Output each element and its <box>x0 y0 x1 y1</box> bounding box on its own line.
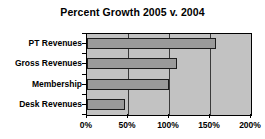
chart-title: Percent Growth 2005 v. 2004 <box>0 6 265 18</box>
x-axis-label-200: 200% <box>230 120 265 130</box>
y-axis-category-labels: PT RevenuesGross RevenuesMembershipDesk … <box>0 33 82 114</box>
bar-desk-revenues[interactable] <box>87 99 125 110</box>
x-axis-label-100: 100% <box>148 120 188 130</box>
y-axis-tick <box>82 63 86 64</box>
y-axis-tick <box>82 43 86 44</box>
x-axis-label-0: 0% <box>66 120 106 130</box>
plot-inner <box>87 34 251 115</box>
bar-row <box>87 54 251 74</box>
x-axis-tick-150 <box>209 114 210 118</box>
y-axis-tick <box>82 94 86 95</box>
plot-area <box>86 33 252 116</box>
y-axis-tick <box>82 104 86 105</box>
x-axis-label-50: 50% <box>107 120 147 130</box>
bar-membership[interactable] <box>87 79 169 90</box>
bar-gross-revenues[interactable] <box>87 58 177 69</box>
x-axis-tick-0 <box>86 114 87 118</box>
x-axis-label-150: 150% <box>189 120 229 130</box>
bar-row <box>87 34 251 54</box>
bar-pt-revenues[interactable] <box>87 38 216 49</box>
y-axis-label-desk-revenues: Desk Revenues <box>0 99 82 109</box>
x-axis-tick-200 <box>250 114 251 118</box>
y-axis-tick <box>82 53 86 54</box>
y-axis-label-membership: Membership <box>0 79 82 89</box>
bar-row <box>87 95 251 115</box>
y-axis-tick <box>82 84 86 85</box>
bar-row <box>87 75 251 95</box>
y-axis-label-gross-revenues: Gross Revenues <box>0 58 82 68</box>
y-axis-label-pt-revenues: PT Revenues <box>0 38 82 48</box>
y-axis-tick <box>82 74 86 75</box>
x-axis-tick-50 <box>127 114 128 118</box>
y-axis-tick <box>82 33 86 34</box>
x-axis-tick-100 <box>168 114 169 118</box>
chart-screenshot: Percent Growth 2005 v. 2004 PT RevenuesG… <box>0 0 265 139</box>
